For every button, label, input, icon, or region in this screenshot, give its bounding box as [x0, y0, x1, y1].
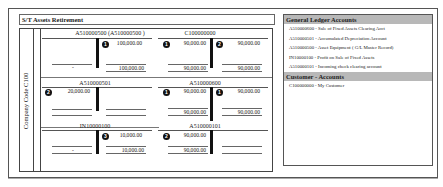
credit-amount: 90,000.00 — [226, 40, 260, 46]
credit-total-line — [106, 109, 146, 110]
gl-accounts-header: General Ledger Accounts — [284, 15, 432, 24]
company-code-label: Company Code C100 — [22, 73, 29, 129]
step-badge: 1 — [102, 41, 109, 48]
gl-account-item: A510000101 - Incoming check clearing acc… — [284, 62, 432, 72]
step-badge: 1 — [163, 41, 170, 48]
row-divider — [41, 77, 272, 78]
t-account-title: C100000000 — [170, 30, 230, 36]
t-top-line — [158, 38, 268, 39]
step-badge: 2 — [163, 133, 170, 140]
account-legend-panel: General Ledger Accounts A510000600 - Sal… — [283, 14, 433, 166]
diagram-title: S/T Assets Retirement — [19, 14, 275, 25]
step-badge: 2 — [216, 41, 223, 48]
debit-total: - — [72, 64, 74, 70]
debit-total-underline — [168, 71, 208, 72]
t-account-title: A510000101 — [180, 123, 230, 129]
debit-amount: 90,000.00 — [172, 132, 206, 138]
customer-accounts-header: Customer - Accounts — [284, 72, 432, 81]
credit-amount: 100,000.00 — [110, 40, 142, 46]
debit-total-underline — [168, 115, 208, 116]
debit-amount: 90,000.00 — [172, 40, 206, 46]
credit-total-underline — [222, 153, 262, 154]
t-stem — [96, 130, 99, 154]
credit-amount: 10,000.00 — [110, 132, 142, 138]
step-badge: 1 — [163, 89, 170, 96]
credit-total-underline — [106, 115, 146, 116]
step-badge: 3 — [102, 133, 109, 140]
t-stem — [96, 87, 99, 111]
side-label-column: Company Code C100 — [20, 29, 34, 171]
gl-account-item: A510000500 - Asset Equipment ( G/L Maste… — [284, 43, 432, 53]
debit-amount: 90,000.00 — [172, 88, 206, 94]
debit-total-line — [52, 109, 92, 110]
debit-total-underline — [52, 115, 92, 116]
step-badge: 2 — [45, 89, 52, 96]
debit-total-underline — [168, 153, 208, 154]
credit-total-underline — [222, 71, 262, 72]
credit-total-underline — [106, 153, 146, 154]
frame-shadow — [8, 178, 438, 179]
t-stem — [210, 130, 213, 154]
credit-total-underline — [222, 115, 262, 116]
debit-total-underline — [52, 153, 92, 154]
t-stem — [96, 38, 99, 68]
t-account-diagram: Company Code C100 A510000500 (A510000500… — [19, 28, 273, 172]
gl-account-item: IN10000100 - Profit on Sale of Fixed Ass… — [284, 53, 432, 63]
t-stem — [210, 38, 213, 68]
t-account-title: A510000501 — [70, 80, 120, 86]
gl-account-item: A510000600 - Sale of Fixed Assets Cleari… — [284, 24, 432, 34]
t-stem — [210, 87, 213, 121]
t-account-title: A510000600 — [180, 80, 230, 86]
credit-amount: 90,000.00 — [226, 88, 260, 94]
debit-amount: 20,000.00 — [56, 88, 90, 94]
step-badge: 1 — [216, 89, 223, 96]
t-top-line — [158, 130, 268, 131]
t-account-title: IN10000100 — [70, 123, 120, 129]
customer-account-item: C100000000 - My Customer — [284, 81, 432, 91]
side-spacer-column — [34, 29, 41, 171]
credit-total-line — [222, 146, 262, 147]
gl-account-item: A510000501 - Accumulated Depreciation Ac… — [284, 34, 432, 44]
t-account-title: A510000500 (A510000500 ) — [60, 30, 160, 36]
credit-total-underline — [106, 71, 146, 72]
